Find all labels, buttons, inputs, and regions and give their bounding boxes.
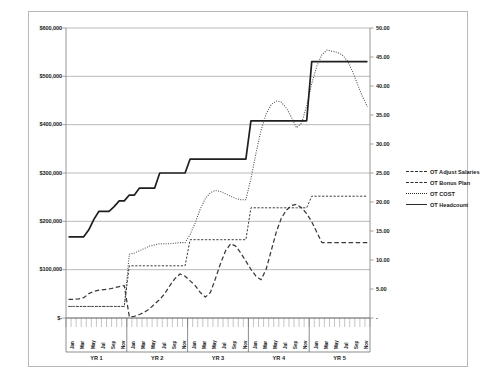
- legend-item[interactable]: OT Bonus Plan: [406, 177, 494, 188]
- y-axis-right-tick-label: 15.00: [376, 228, 390, 234]
- x-axis-month-label: Sep: [293, 341, 298, 349]
- legend-item-label: OT COST: [427, 191, 455, 197]
- x-axis-year-group-label: YR 5: [309, 355, 370, 361]
- x-axis-month-label: Nov: [182, 340, 187, 349]
- y-axis-right-tick-label: -: [376, 315, 378, 321]
- y-axis-right-tick-label: 10.00: [376, 257, 390, 263]
- x-axis-month-label: Jul: [283, 342, 288, 349]
- x-axis-month-label: Mar: [141, 341, 146, 349]
- x-axis-month-label: Nov: [303, 340, 308, 349]
- x-axis-month-label: Sep: [354, 341, 359, 349]
- y-axis-right-tick-label: 25.00: [376, 170, 390, 176]
- chart-legend: OT Adjust SalariesOT Bonus PlanOT COSTOT…: [406, 166, 494, 210]
- y-axis-right-tick-label: 30.00: [376, 141, 390, 147]
- legend-item[interactable]: OT Adjust Salaries: [406, 166, 494, 177]
- x-axis-month-label: Jul: [162, 342, 167, 349]
- legend-item-label: OT Bonus Plan: [427, 180, 470, 186]
- x-axis-month-label: May: [212, 340, 217, 349]
- y-axis-left-tick-label: $-: [8, 315, 62, 321]
- x-axis-year-group-label: YR 1: [66, 355, 127, 361]
- series-line-ot-adjust-salaries: [69, 196, 368, 306]
- y-axis-right-tick-label: 35.00: [376, 112, 390, 118]
- legend-line-swatch-icon: [406, 201, 427, 208]
- x-axis-month-label: Jul: [344, 342, 349, 349]
- y-axis-left-tick-label: $300,000: [8, 170, 62, 176]
- x-axis-month-label: Nov: [121, 340, 126, 349]
- y-axis-left-tick-label: $100,000: [8, 266, 62, 272]
- y-axis-left-tick-label: $200,000: [8, 218, 62, 224]
- x-axis-month-label: Mar: [324, 341, 329, 349]
- x-axis-month-label: Jan: [192, 341, 197, 349]
- x-axis-month-label: Jul: [101, 342, 106, 349]
- legend-item[interactable]: OT COST: [406, 188, 494, 199]
- y-axis-left-tick-label: $400,000: [8, 121, 62, 127]
- x-axis-month-label: Sep: [111, 341, 116, 349]
- legend-line-swatch-icon: [406, 190, 427, 197]
- legend-line-swatch-icon: [406, 168, 427, 175]
- x-axis-year-group-label: YR 4: [248, 355, 309, 361]
- x-axis-year-group-label: YR 2: [127, 355, 188, 361]
- x-axis-month-label: Sep: [172, 341, 177, 349]
- y-axis-left-tick-label: $500,000: [8, 73, 62, 79]
- x-axis-month-label: Nov: [364, 340, 369, 349]
- x-axis-month-label: Mar: [263, 341, 268, 349]
- y-axis-right-tick-label: 45.00: [376, 54, 390, 60]
- y-axis-left-tick-label: $600,000: [8, 25, 62, 31]
- x-axis-month-label: Nov: [243, 340, 248, 349]
- y-axis-right-tick-label: 20.00: [376, 199, 390, 205]
- legend-item-label: OT Headcount: [427, 202, 468, 208]
- x-axis-year-group-label: YR 3: [188, 355, 249, 361]
- gridlines: [66, 28, 370, 318]
- x-axis-month-label: May: [273, 340, 278, 349]
- y-axis-right-tick-label: 5.00: [376, 286, 387, 292]
- x-axis-month-label: Mar: [80, 341, 85, 349]
- x-axis-month-label: Jan: [314, 341, 319, 349]
- series-line-ot-headcount: [69, 62, 368, 237]
- x-axis-month-label: May: [151, 340, 156, 349]
- x-axis-month-label: May: [91, 340, 96, 349]
- legend-line-swatch-icon: [406, 179, 427, 186]
- legend-item-label: OT Adjust Salaries: [427, 169, 480, 175]
- x-axis-month-label: May: [334, 340, 339, 349]
- x-axis-month-label: Jan: [131, 341, 136, 349]
- x-axis-month-label: Jan: [253, 341, 258, 349]
- x-axis-month-label: Jan: [70, 341, 75, 349]
- legend-item[interactable]: OT Headcount: [406, 199, 494, 210]
- x-axis-month-label: Sep: [232, 341, 237, 349]
- x-axis-month-label: Mar: [202, 341, 207, 349]
- x-axis-month-label: Jul: [222, 342, 227, 349]
- y-axis-right-tick-label: 50.00: [376, 25, 390, 31]
- y-axis-right-tick-label: 40.00: [376, 83, 390, 89]
- series-line-ot-cost: [69, 50, 368, 306]
